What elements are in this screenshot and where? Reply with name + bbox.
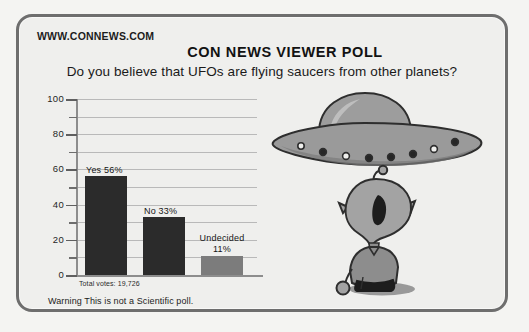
ytick-0 [66, 275, 77, 277]
ytick-90 [69, 117, 77, 119]
ufo-alien-svg [265, 91, 501, 301]
chart-plot-area: Yes 56% No 33% Undecided11% [77, 99, 257, 275]
total-votes-label: Total votes: 19,726 [79, 280, 140, 287]
screenshot-root: WWW.CONNEWS.COM CON NEWS VIEWER POLL Do … [0, 0, 529, 332]
ytick-label-80: 80 [32, 128, 64, 139]
ytick-30 [69, 222, 77, 224]
ytick-20 [66, 240, 77, 242]
bar-yes [85, 176, 127, 275]
gridline-90 [77, 117, 257, 118]
gridline-70 [77, 152, 257, 153]
gridline-80 [77, 134, 257, 135]
ytick-10 [69, 257, 77, 259]
bar-undecided [201, 256, 243, 275]
ytick-80 [66, 134, 77, 136]
ytick-100 [66, 99, 77, 101]
bar-no [143, 217, 185, 275]
ytick-label-20: 20 [32, 234, 64, 245]
poll-bar-chart: Yes 56% No 33% Undecided11% 100 80 60 40… [33, 91, 265, 291]
poll-question: Do you believe that UFOs are flying sauc… [19, 64, 505, 79]
warning-label: Warning This is not a Scientific poll. [48, 296, 193, 306]
alien-character-illustration [337, 166, 416, 296]
bar-label-undecided: Undecided11% [194, 233, 250, 254]
ytick-label-100: 100 [32, 93, 64, 104]
ytick-label-40: 40 [32, 199, 64, 210]
ytick-label-0: 0 [32, 269, 64, 280]
illustration-area [265, 91, 501, 301]
ytick-60 [66, 169, 77, 171]
poll-panel: WWW.CONNEWS.COM CON NEWS VIEWER POLL Do … [16, 14, 508, 312]
ufo-flying-saucer-illustration [273, 93, 482, 166]
ytick-50 [69, 187, 77, 189]
x-axis-line [73, 275, 263, 277]
bar-label-no: No 33% [144, 206, 177, 216]
ytick-label-60: 60 [32, 163, 64, 174]
ytick-40 [66, 205, 77, 207]
site-url-label: WWW.CONNEWS.COM [37, 30, 154, 42]
ytick-70 [69, 152, 77, 154]
page-title: CON NEWS VIEWER POLL [19, 44, 505, 60]
bar-label-yes: Yes 56% [86, 165, 123, 175]
gridline-100 [77, 99, 257, 100]
